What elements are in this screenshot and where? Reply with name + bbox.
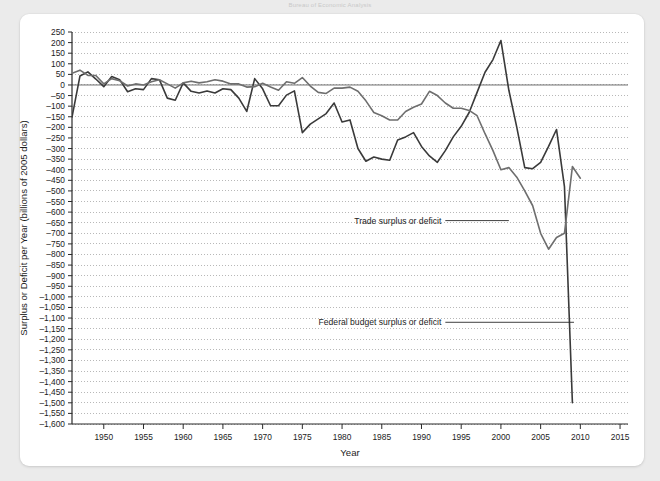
y-axis-tick-label: –850 <box>46 260 65 270</box>
y-axis-tick-label: –1,050 <box>39 302 65 312</box>
gridlines <box>72 32 628 424</box>
y-axis-tick-label: –150 <box>46 112 65 122</box>
y-axis: 250200150100500–50–100–150–200–250–300–3… <box>39 27 72 429</box>
chart-plot-area: 250200150100500–50–100–150–200–250–300–3… <box>0 0 660 481</box>
y-axis-tick-label: –1,500 <box>39 398 65 408</box>
y-axis-tick-label: –50 <box>51 91 65 101</box>
y-axis-tick-label: –1,350 <box>39 366 65 376</box>
chart-page: Bureau of Economic Analysis 250200150100… <box>0 0 660 481</box>
y-axis-tick-label: –1,100 <box>39 313 65 323</box>
x-axis-tick-label: 1990 <box>412 432 431 442</box>
x-axis: 1950195519601965197019751980198519901995… <box>72 424 630 442</box>
x-axis-tick-label: 1995 <box>452 432 471 442</box>
y-axis-tick-label: –1,450 <box>39 387 65 397</box>
y-axis-tick-label: –1,200 <box>39 334 65 344</box>
y-axis-tick-label: –600 <box>46 207 65 217</box>
x-axis-tick-label: 1965 <box>214 432 233 442</box>
x-axis-tick-label: 1985 <box>372 432 391 442</box>
y-axis-tick-label: –1,300 <box>39 355 65 365</box>
annotation-label: Trade surplus or deficit <box>354 216 442 226</box>
y-axis-tick-label: –1,150 <box>39 324 65 334</box>
x-axis-title: Year <box>340 447 360 458</box>
y-axis-tick-label: –1,550 <box>39 408 65 418</box>
y-axis-tick-label: 200 <box>51 38 65 48</box>
y-axis-tick-label: –950 <box>46 281 65 291</box>
x-axis-tick-label: 1955 <box>134 432 153 442</box>
y-axis-tick-label: 100 <box>51 59 65 69</box>
y-axis-tick-label: –800 <box>46 249 65 259</box>
y-axis-tick-label: –750 <box>46 239 65 249</box>
y-axis-title: Surplus or Deficit per Year (billions of… <box>18 120 29 335</box>
y-axis-tick-label: –650 <box>46 218 65 228</box>
y-axis-tick-label: –1,250 <box>39 345 65 355</box>
y-axis-title-group: Surplus or Deficit per Year (billions of… <box>18 120 29 335</box>
y-axis-tick-label: –400 <box>46 165 65 175</box>
x-axis-tick-label: 1950 <box>94 432 113 442</box>
y-axis-tick-label: –1,600 <box>39 419 65 429</box>
y-axis-tick-label: –450 <box>46 175 65 185</box>
chart-svg: 250200150100500–50–100–150–200–250–300–3… <box>0 0 660 481</box>
y-axis-tick-label: 0 <box>60 80 65 90</box>
y-axis-tick-label: –700 <box>46 228 65 238</box>
x-axis-tick-label: 2015 <box>611 432 630 442</box>
x-axis-tick-label: 2010 <box>571 432 590 442</box>
y-axis-tick-label: –350 <box>46 154 65 164</box>
y-axis-tick-label: –250 <box>46 133 65 143</box>
y-axis-tick-label: –550 <box>46 197 65 207</box>
series-group <box>72 40 580 402</box>
x-axis-tick-label: 1970 <box>253 432 272 442</box>
annotation-label: Federal budget surplus or deficit <box>319 317 442 327</box>
y-axis-tick-label: 50 <box>56 69 66 79</box>
x-axis-tick-label: 1975 <box>293 432 312 442</box>
y-axis-tick-label: 150 <box>51 48 65 58</box>
x-axis-tick-label: 1980 <box>333 432 352 442</box>
annotations: Trade surplus or deficitFederal budget s… <box>319 216 574 328</box>
y-axis-tick-label: 250 <box>51 27 65 37</box>
y-axis-tick-label: –200 <box>46 122 65 132</box>
y-axis-tick-label: –900 <box>46 271 65 281</box>
y-axis-tick-label: –500 <box>46 186 65 196</box>
x-axis-tick-label: 2005 <box>531 432 550 442</box>
series-line <box>72 40 572 402</box>
y-axis-tick-label: –100 <box>46 101 65 111</box>
series-line <box>72 70 580 249</box>
x-axis-tick-label: 1960 <box>174 432 193 442</box>
y-axis-tick-label: –300 <box>46 144 65 154</box>
x-axis-tick-label: 2000 <box>492 432 511 442</box>
y-axis-tick-label: –1,400 <box>39 377 65 387</box>
y-axis-tick-label: –1,000 <box>39 292 65 302</box>
